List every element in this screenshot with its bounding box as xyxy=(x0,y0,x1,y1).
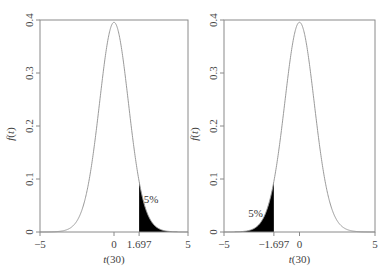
density-curve xyxy=(40,22,188,232)
plot-panel-right-tail: 00.10.20.30.4−501.6975t(30)f(t)5% xyxy=(4,13,191,266)
y-axis-label: f(t) xyxy=(188,127,201,141)
x-axis-label: t(30) xyxy=(289,253,311,266)
density-curve xyxy=(224,22,375,232)
x-tick-label: −5 xyxy=(34,238,46,250)
tail-percentage-annotation: 5% xyxy=(144,193,159,205)
x-tick-label: −5 xyxy=(218,238,230,250)
x-tick-label: 5 xyxy=(185,238,191,250)
plot-frame xyxy=(40,20,188,232)
tail-percentage-annotation: 5% xyxy=(248,207,263,219)
y-tick-label: 0.3 xyxy=(23,66,35,80)
y-tick-label: 0 xyxy=(207,229,219,235)
x-axis-label: t(30) xyxy=(103,253,125,266)
y-tick-label: 0.1 xyxy=(23,172,35,186)
y-tick-label: 0.2 xyxy=(23,119,35,133)
y-tick-label: 0.3 xyxy=(207,66,219,80)
x-tick-label: 1.697 xyxy=(127,238,152,250)
x-tick-label: 0 xyxy=(297,238,303,250)
y-tick-label: 0.4 xyxy=(23,13,35,27)
plot-panel-left-tail: 00.10.20.30.4−5−1.69705t(30)f(t)5% xyxy=(188,13,378,266)
shaded-tail-area xyxy=(139,181,188,232)
y-tick-label: 0.2 xyxy=(207,119,219,133)
y-axis-label: f(t) xyxy=(4,127,17,141)
y-tick-label: 0.1 xyxy=(207,172,219,186)
t-distribution-figure: 00.10.20.30.4−501.6975t(30)f(t)5%00.10.2… xyxy=(0,0,389,272)
x-tick-label: 0 xyxy=(111,238,117,250)
y-tick-label: 0.4 xyxy=(207,13,219,27)
x-tick-label: −1.697 xyxy=(258,238,289,250)
x-tick-label: 5 xyxy=(372,238,378,250)
plot-frame xyxy=(224,20,375,232)
y-tick-label: 0 xyxy=(23,229,35,235)
